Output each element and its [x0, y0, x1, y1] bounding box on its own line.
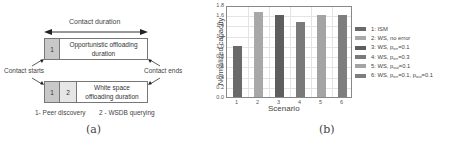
bar-scenario-6: [338, 15, 347, 97]
x-tick-label: 5: [316, 99, 326, 105]
y-tick-label: 1.2: [210, 33, 224, 39]
legend-label: 2: WS, no error: [371, 35, 410, 41]
bar-scenario-2: [254, 12, 263, 97]
y-tick-label: 1.8: [210, 2, 224, 8]
wsdb-querying-legend: 2 - WSDB querying: [99, 109, 155, 116]
bar-scenario-3: [275, 15, 284, 97]
legend-swatch: [355, 74, 366, 78]
legend-label: 3: WS, perr=0.1: [371, 44, 410, 51]
y-tick-label: 0.8: [210, 53, 224, 59]
legend-label: 1: ISM: [371, 26, 388, 32]
bar-scenario-1: [233, 46, 242, 97]
double-arrow-icon: [44, 28, 148, 36]
contact-ends-arrows-icon: [146, 58, 162, 86]
contact-duration-label: Contact duration: [69, 18, 120, 25]
vertical-gridline: [269, 7, 270, 97]
white-space-offloading-box: 1 2 White space offloading duration: [44, 81, 148, 103]
vertical-gridline: [290, 7, 291, 97]
legend-item: 2: WS, no error: [355, 35, 410, 41]
y-tick-label: 0.0: [210, 94, 224, 100]
x-axis-label: Scenario: [268, 104, 300, 113]
opportunistic-offloading-box: 1 Opportunistic offloading duration: [44, 38, 148, 60]
y-tick-label: 0.4: [210, 74, 224, 80]
white-space-line-2: offloading duration: [85, 92, 138, 101]
plot-area: [226, 6, 352, 98]
legend-label: 5: WS, pout=0.1: [371, 63, 410, 70]
x-tick-label: 6: [337, 99, 347, 105]
legend-swatch: [355, 64, 366, 68]
panel-a-caption: (a): [86, 123, 101, 136]
bar-scenario-5: [317, 15, 326, 97]
opportunistic-line-1: Opportunistic offloading: [69, 40, 137, 49]
legend-swatch: [355, 46, 366, 50]
y-tick-label: 1.0: [210, 43, 224, 49]
legend-item: 5: WS, pout=0.1: [355, 63, 410, 70]
panel-b-caption: (b): [319, 123, 335, 136]
wsdb-querying-cell: 2: [60, 82, 77, 102]
legend-swatch: [355, 55, 366, 59]
vertical-gridline: [248, 7, 249, 97]
y-tick-label: 0.6: [210, 63, 224, 69]
peer-discovery-legend: 1- Peer discovery: [35, 109, 86, 116]
legend-item: 4: WS, perr=0.3: [355, 54, 410, 61]
legend-swatch: [355, 36, 366, 40]
y-tick-label: 0.2: [210, 84, 224, 90]
legend-swatch: [355, 27, 366, 31]
peer-discovery-cell: 1: [45, 82, 60, 102]
legend-item: 6: WS, perr=0.1, pout=0.1: [355, 72, 433, 79]
white-space-line-1: White space: [85, 83, 138, 92]
x-tick-label: 1: [232, 99, 242, 105]
y-tick-label: 1.6: [210, 12, 224, 18]
vertical-gridline: [332, 7, 333, 97]
opportunistic-offloading-text: Opportunistic offloading duration: [60, 39, 147, 59]
bar-scenario-4: [296, 22, 305, 97]
legend-item: 3: WS, perr=0.1: [355, 44, 410, 51]
vertical-gridline: [311, 7, 312, 97]
legend-item: 1: ISM: [355, 26, 388, 32]
x-tick-label: 2: [253, 99, 263, 105]
white-space-offloading-text: White space offloading duration: [77, 82, 147, 102]
legend-label: 4: WS, perr=0.3: [371, 54, 410, 61]
legend-label: 6: WS, perr=0.1, pout=0.1: [371, 72, 433, 79]
opportunistic-line-2: duration: [69, 49, 137, 58]
peer-discovery-cell: 1: [45, 39, 60, 59]
y-tick-label: 1.4: [210, 22, 224, 28]
